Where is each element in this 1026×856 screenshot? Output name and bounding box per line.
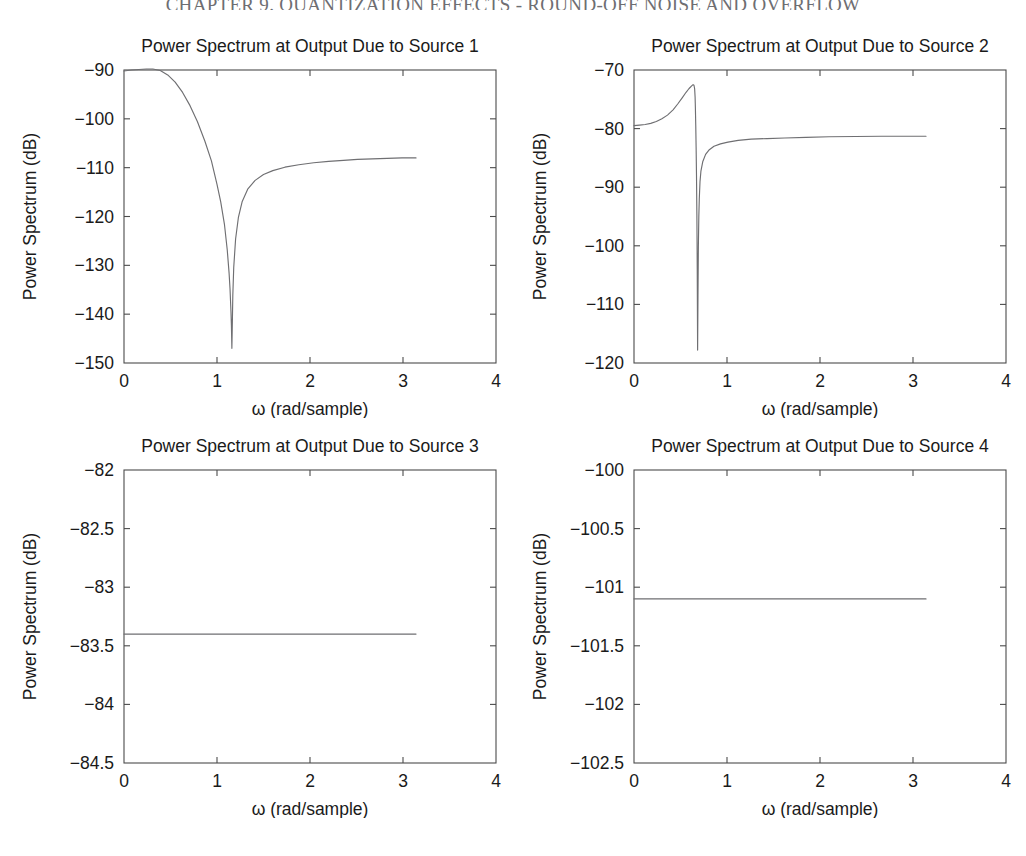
plot-panel-source-2: Power Spectrum at Output Due to Source 2… [512,18,1018,418]
x-axis-label: ω (rad/sample) [762,399,879,418]
y-tick-label: −101.5 [570,636,624,656]
y-tick-label: −100 [75,109,115,129]
chart-title: Power Spectrum at Output Due to Source 4 [651,436,989,456]
y-axis-label: Power Spectrum (dB) [20,133,40,300]
y-tick-label: −80 [594,119,624,139]
x-axis-label: ω (rad/sample) [252,399,369,418]
chart-svg-source-4: Power Spectrum at Output Due to Source 4… [512,418,1018,818]
chart-title: Power Spectrum at Output Due to Source 1 [141,36,479,56]
plot-frame [124,470,496,763]
chart-svg-source-1: Power Spectrum at Output Due to Source 1… [2,18,508,418]
y-tick-label: −83 [84,577,114,597]
x-tick-label: 4 [1001,771,1011,791]
x-tick-label: 3 [908,371,918,391]
y-tick-label: −100 [585,236,625,256]
x-tick-label: 0 [629,371,639,391]
x-tick-label: 4 [491,771,501,791]
x-tick-label: 0 [629,771,639,791]
x-tick-label: 0 [119,371,129,391]
y-tick-label: −84.5 [70,753,114,773]
y-tick-label: −120 [585,353,625,373]
x-tick-label: 2 [305,371,315,391]
x-axis-label: ω (rad/sample) [252,799,369,818]
running-head: CHAPTER 9. QUANTIZATION EFFECTS - ROUND-… [0,0,1026,10]
y-tick-label: −84 [84,694,114,714]
chart-svg-source-2: Power Spectrum at Output Due to Source 2… [512,18,1018,418]
y-tick-label: −90 [84,60,114,80]
y-axis-label: Power Spectrum (dB) [530,533,550,700]
y-tick-label: −140 [75,304,115,324]
y-tick-label: −102 [585,694,624,714]
y-tick-label: −82 [84,460,114,480]
chart-title: Power Spectrum at Output Due to Source 2 [651,36,989,56]
x-tick-label: 4 [491,371,501,391]
x-tick-label: 3 [398,771,408,791]
chart-title: Power Spectrum at Output Due to Source 3 [141,436,479,456]
y-tick-label: −110 [586,294,624,314]
plot-frame [124,70,496,363]
plot-frame [634,470,1006,763]
y-tick-label: −90 [594,177,624,197]
y-tick-label: −120 [75,207,115,227]
x-tick-label: 2 [815,771,825,791]
x-tick-label: 2 [305,771,315,791]
data-series-line [634,85,926,350]
y-tick-label: −70 [594,60,624,80]
y-axis-label: Power Spectrum (dB) [530,133,550,300]
y-tick-label: −100.5 [570,519,624,539]
figure-page: CHAPTER 9. QUANTIZATION EFFECTS - ROUND-… [0,0,1026,856]
plot-panel-source-4: Power Spectrum at Output Due to Source 4… [512,418,1018,818]
x-tick-label: 1 [212,371,222,391]
power-spectrum-figure-grid: Power Spectrum at Output Due to Source 1… [0,18,1026,856]
data-series-line [124,69,416,348]
y-axis-label: Power Spectrum (dB) [20,533,40,700]
plot-frame [634,70,1006,363]
y-tick-label: −150 [75,353,115,373]
y-tick-label: −101 [585,577,624,597]
x-tick-label: 2 [815,371,825,391]
y-tick-label: −110 [76,158,114,178]
plot-panel-source-3: Power Spectrum at Output Due to Source 3… [2,418,508,818]
y-tick-label: −82.5 [70,519,114,539]
x-tick-label: 4 [1001,371,1011,391]
chart-svg-source-3: Power Spectrum at Output Due to Source 3… [2,418,508,818]
y-tick-label: −130 [75,255,115,275]
y-tick-label: −100 [585,460,625,480]
x-tick-label: 1 [212,771,222,791]
x-tick-label: 1 [722,371,732,391]
x-tick-label: 1 [722,771,732,791]
plot-panel-source-1: Power Spectrum at Output Due to Source 1… [2,18,508,418]
x-tick-label: 3 [398,371,408,391]
y-tick-label: −83.5 [70,636,114,656]
x-tick-label: 3 [908,771,918,791]
x-tick-label: 0 [119,771,129,791]
y-tick-label: −102.5 [570,753,624,773]
x-axis-label: ω (rad/sample) [762,799,879,818]
